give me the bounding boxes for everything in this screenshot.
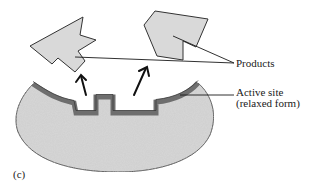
panel-label: (c) xyxy=(13,169,25,180)
product-right xyxy=(144,11,208,60)
product-left xyxy=(30,17,96,72)
release-arrow-right xyxy=(134,67,149,95)
products-label: Products xyxy=(236,58,275,69)
active-site-form-label: (relaxed form) xyxy=(236,98,300,109)
release-arrows xyxy=(76,67,149,95)
release-arrow-left xyxy=(76,75,86,95)
